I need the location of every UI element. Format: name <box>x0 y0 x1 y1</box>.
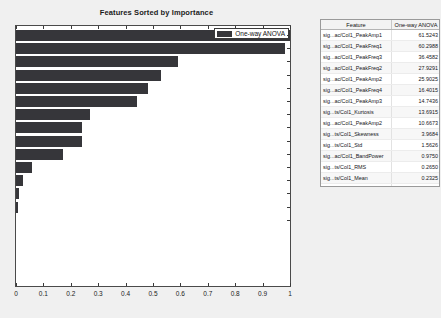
table-row[interactable]: sig...ac/Col1_PeakAmp161.5243 <box>321 30 440 41</box>
table-row[interactable]: sig...ts/Col1_Skewness3.9684 <box>321 129 440 140</box>
y-tick-mark <box>287 75 290 76</box>
x-tick-mark-top <box>126 26 127 29</box>
x-tick-mark-top <box>16 26 17 29</box>
bar[interactable] <box>16 109 90 120</box>
cell-feature-name: sig...ac/Col1_BandPower <box>321 151 392 162</box>
x-tick-mark-top <box>208 26 209 29</box>
y-tick-mark <box>287 61 290 62</box>
table-row[interactable]: sig...ac/Col1_PeakAmp314.7436 <box>321 96 440 107</box>
x-tick-mark-top <box>71 26 72 29</box>
cell-feature-name: sig...ac/Col1_PeakAmp2 <box>321 118 392 129</box>
cell-anova-score: 0.0896 <box>392 184 441 188</box>
cell-anova-score: 1.5626 <box>392 140 441 151</box>
cell-feature-name: sig...ts/Col1_Std <box>321 140 392 151</box>
cell-anova-score: 13.6915 <box>392 107 441 118</box>
bar[interactable] <box>16 188 19 199</box>
table-row[interactable]: sig...ts/Col1_Std1.5626 <box>321 140 440 151</box>
table-row[interactable]: sig...ac/Col1_PeakAmp225.9025 <box>321 74 440 85</box>
table-row[interactable]: sig...ac/Col1_PeakFreq160.2988 <box>321 41 440 52</box>
y-tick-mark <box>287 154 290 155</box>
cell-feature-name: sig...ac/Col1_PeakAmp3 <box>321 96 392 107</box>
x-tick-mark-top <box>235 26 236 29</box>
cell-feature-name: sig...ac/Col1_PeakAmp1 <box>321 30 392 41</box>
cell-anova-score: 27.9291 <box>392 63 441 74</box>
cell-anova-score: 0.2325 <box>392 173 441 184</box>
cell-anova-score: 36.4582 <box>392 52 441 63</box>
bar[interactable] <box>16 136 82 147</box>
x-tick-label: 0.2 <box>66 290 75 297</box>
bar[interactable] <box>16 96 137 107</box>
cell-feature-name: sig...ac/Col1_PeakAmp2 <box>321 74 392 85</box>
table-row[interactable]: sig...ac/Col1_BandPower0.9750 <box>321 151 440 162</box>
cell-anova-score: 0.2650 <box>392 162 441 173</box>
bar[interactable] <box>16 175 23 186</box>
x-tick-mark <box>71 283 72 286</box>
x-tick-mark <box>235 283 236 286</box>
chart-title: Features Sorted by Importance <box>0 8 313 17</box>
feature-ranking-table: Feature One-way ANOVA sig...ac/Col1_Peak… <box>321 20 440 187</box>
y-tick-mark <box>287 220 290 221</box>
y-tick-mark <box>287 193 290 194</box>
x-tick-label: 0.9 <box>258 290 267 297</box>
x-tick-label: 0.7 <box>203 290 212 297</box>
table-row[interactable]: sig...ts/Col1_PeakValue0.0896 <box>321 184 440 188</box>
column-header-one-way-anova[interactable]: One-way ANOVA <box>392 20 441 30</box>
y-tick-mark <box>287 167 290 168</box>
table-row[interactable]: sig...ac/Col1_PeakFreq336.4582 <box>321 52 440 63</box>
x-tick-mark <box>43 283 44 286</box>
cell-feature-name: sig...ac/Col1_PeakFreq4 <box>321 85 392 96</box>
x-tick-mark <box>16 283 17 286</box>
bar[interactable] <box>16 70 161 81</box>
cell-feature-name: sig...ac/Col1_PeakFreq2 <box>321 63 392 74</box>
bar[interactable] <box>16 122 82 133</box>
bar-chart-plot-area[interactable]: One-way ANOVA <box>15 25 291 287</box>
bar[interactable] <box>16 149 63 160</box>
column-header-feature[interactable]: Feature <box>321 20 392 30</box>
feature-ranking-table-panel[interactable]: Feature One-way ANOVA sig...ac/Col1_Peak… <box>320 19 440 187</box>
legend-swatch-one-way-anova <box>217 31 232 37</box>
chart-panel: Features Sorted by Importance One-way AN… <box>0 0 313 318</box>
bar[interactable] <box>16 43 285 54</box>
table-row[interactable]: sig...ac/Col1_PeakAmp210.6673 <box>321 118 440 129</box>
bar[interactable] <box>16 162 32 173</box>
table-row[interactable]: sig...ts/Col1_RMS0.2650 <box>321 162 440 173</box>
cell-anova-score: 16.4015 <box>392 85 441 96</box>
table-row[interactable]: sig...ac/Col1_PeakFreq227.9291 <box>321 63 440 74</box>
bars-layer <box>16 26 290 286</box>
y-tick-mark <box>287 114 290 115</box>
x-tick-mark-top <box>263 26 264 29</box>
x-tick-mark <box>126 283 127 286</box>
bar[interactable] <box>16 83 148 94</box>
bar[interactable] <box>16 202 18 213</box>
x-tick-mark-top <box>98 26 99 29</box>
x-tick-label: 1 <box>288 290 292 297</box>
y-tick-mark <box>287 141 290 142</box>
cell-anova-score: 61.5243 <box>392 30 441 41</box>
x-tick-label: 0.1 <box>39 290 48 297</box>
x-tick-mark-top <box>290 26 291 29</box>
chart-legend: One-way ANOVA <box>214 28 289 39</box>
x-tick-label: 0.6 <box>176 290 185 297</box>
cell-feature-name: sig...ac/Col1_PeakFreq1 <box>321 41 392 52</box>
cell-feature-name: sig...ts/Col1_RMS <box>321 162 392 173</box>
table-row[interactable]: sig...ac/Col1_PeakFreq416.4015 <box>321 85 440 96</box>
cell-anova-score: 25.9025 <box>392 74 441 85</box>
table-row[interactable]: sig...ts/Col1_Kurtosis13.6915 <box>321 107 440 118</box>
table-body: sig...ac/Col1_PeakAmp161.5243sig...ac/Co… <box>321 30 440 188</box>
table-header-row: Feature One-way ANOVA <box>321 20 440 30</box>
x-tick-label: 0.4 <box>121 290 130 297</box>
y-tick-mark <box>287 180 290 181</box>
x-tick-label: 0.5 <box>148 290 157 297</box>
cell-feature-name: sig...ts/Col1_PeakValue <box>321 184 392 188</box>
table-row[interactable]: sig...ts/Col1_Mean0.2325 <box>321 173 440 184</box>
x-tick-label: 0.8 <box>231 290 240 297</box>
cell-anova-score: 3.9684 <box>392 129 441 140</box>
cell-feature-name: sig...ac/Col1_PeakFreq3 <box>321 52 392 63</box>
bar[interactable] <box>16 56 178 67</box>
y-tick-mark <box>287 127 290 128</box>
x-tick-mark-top <box>180 26 181 29</box>
y-tick-mark <box>287 88 290 89</box>
x-tick-mark-top <box>153 26 154 29</box>
cell-anova-score: 14.7436 <box>392 96 441 107</box>
legend-label-one-way-anova: One-way ANOVA <box>235 30 285 37</box>
